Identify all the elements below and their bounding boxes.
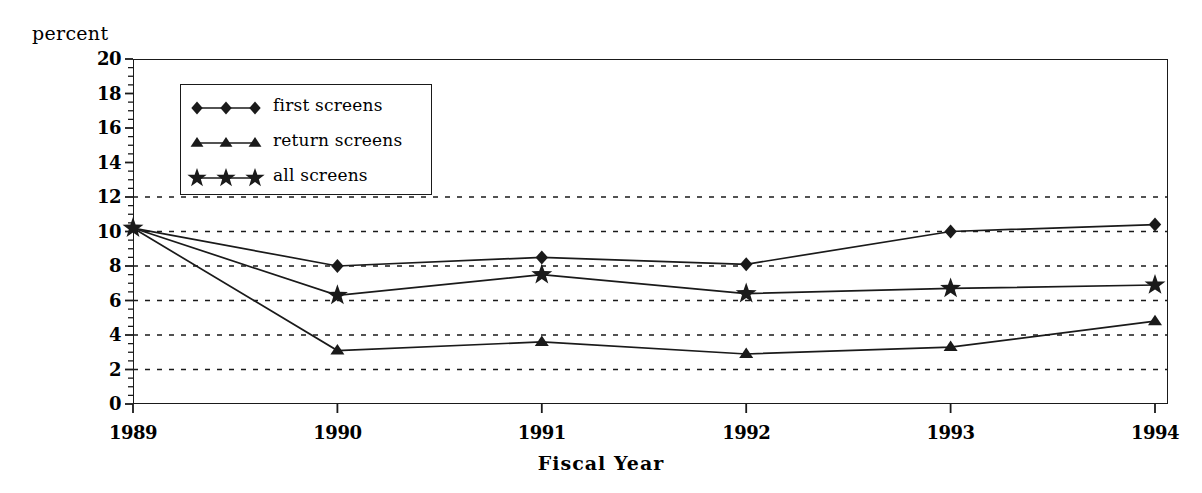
x-axis-title: Fiscal Year bbox=[0, 452, 1202, 474]
y-axis-tick-label: 10 bbox=[75, 221, 121, 242]
series-line-all-screens bbox=[133, 228, 1155, 295]
diamond-marker bbox=[1149, 218, 1161, 232]
triangle-marker bbox=[535, 335, 549, 346]
star-marker bbox=[1145, 274, 1166, 294]
gridlines-group bbox=[133, 197, 1168, 370]
triangle-marker bbox=[191, 137, 204, 147]
triangle-marker bbox=[249, 137, 262, 147]
legend-marker-sample bbox=[187, 91, 271, 125]
diamond-marker bbox=[944, 225, 956, 239]
x-axis-tick-label: 1994 bbox=[1110, 422, 1200, 443]
triangle-marker bbox=[739, 347, 753, 358]
data-series-group bbox=[123, 217, 1166, 358]
x-axis-tick-label: 1989 bbox=[88, 422, 178, 443]
y-axis-tick-label: 16 bbox=[75, 117, 121, 138]
x-axis-tick-label: 1990 bbox=[292, 422, 382, 443]
y-axis-tick-label: 4 bbox=[75, 324, 121, 345]
triangle-marker bbox=[1148, 315, 1162, 326]
legend-marker-sample bbox=[187, 161, 271, 195]
y-axis-tick-label: 0 bbox=[75, 393, 121, 414]
star-marker bbox=[245, 168, 264, 186]
legend-item: first screens bbox=[181, 91, 433, 125]
star-marker bbox=[187, 168, 206, 186]
diamond-marker bbox=[331, 259, 343, 273]
y-axis-tick-label: 12 bbox=[75, 186, 121, 207]
x-axis-ticks bbox=[133, 404, 1155, 413]
legend-item: all screens bbox=[181, 161, 433, 195]
star-marker bbox=[327, 284, 348, 304]
legend-label: all screens bbox=[273, 165, 368, 185]
star-marker bbox=[123, 217, 144, 237]
diamond-marker bbox=[191, 102, 202, 115]
diamond-marker bbox=[220, 102, 231, 115]
diamond-marker bbox=[740, 257, 752, 271]
triangle-marker bbox=[220, 137, 233, 147]
diamond-marker bbox=[249, 102, 260, 115]
triangle-marker bbox=[330, 344, 344, 355]
y-axis-tick-label: 20 bbox=[75, 48, 121, 69]
x-axis-tick-label: 1993 bbox=[906, 422, 996, 443]
y-axis-tick-label: 8 bbox=[75, 255, 121, 276]
star-marker bbox=[736, 283, 757, 303]
chart-container: percent 02468101214161820 19891990199119… bbox=[0, 0, 1202, 493]
diamond-marker bbox=[536, 250, 548, 264]
star-marker bbox=[531, 264, 552, 284]
star-marker bbox=[216, 168, 235, 186]
y-axis-tick-label: 18 bbox=[75, 83, 121, 104]
star-marker bbox=[940, 277, 961, 297]
y-axis-tick-label: 14 bbox=[75, 152, 121, 173]
legend-marker-sample bbox=[187, 126, 271, 160]
legend-label: return screens bbox=[273, 130, 402, 150]
legend-item: return screens bbox=[181, 126, 433, 160]
x-axis-tick-label: 1992 bbox=[701, 422, 791, 443]
x-axis-tick-label: 1991 bbox=[497, 422, 587, 443]
y-axis-tick-label: 2 bbox=[75, 359, 121, 380]
chart-canvas bbox=[0, 0, 1202, 493]
y-axis-tick-label: 6 bbox=[75, 290, 121, 311]
legend-label: first screens bbox=[273, 95, 383, 115]
chart-legend: first screensreturn screensall screens bbox=[180, 84, 432, 195]
